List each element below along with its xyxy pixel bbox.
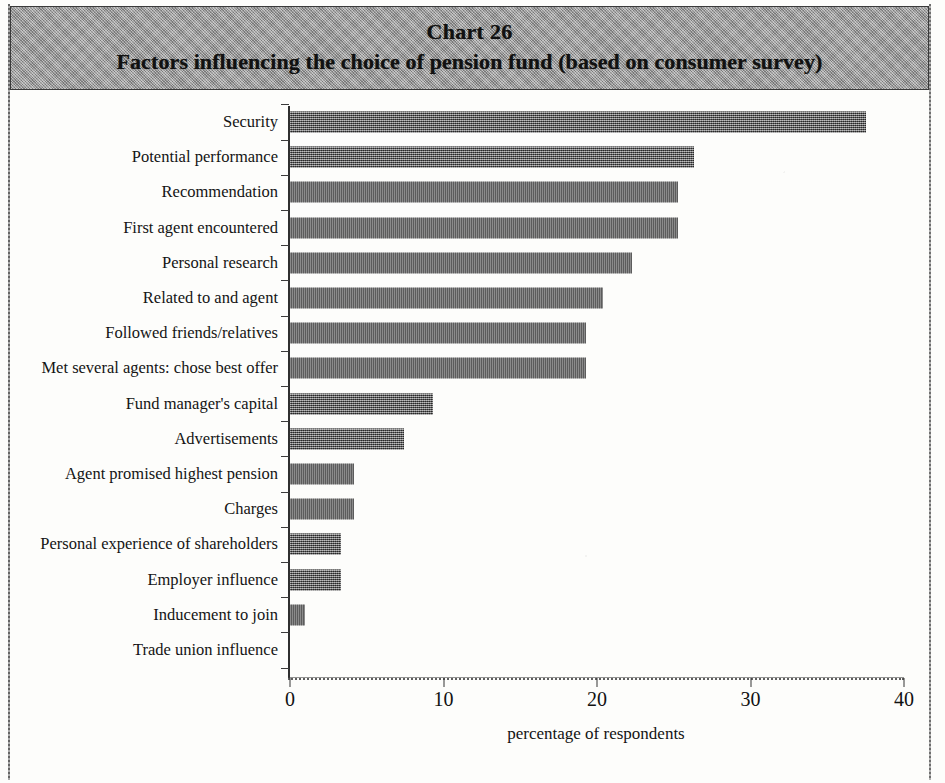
y-axis-tick (281, 316, 289, 317)
category-label: Fund manager's capital (0, 395, 278, 412)
y-axis-tick (281, 668, 289, 669)
bar (290, 112, 866, 133)
x-axis-tick (443, 678, 444, 687)
category-label: Followed friends/relatives (0, 325, 278, 342)
bar (290, 252, 632, 273)
x-axis-tick-label: 0 (285, 689, 295, 709)
y-axis-tick (281, 562, 289, 563)
bar (290, 323, 586, 344)
y-axis-tick (281, 140, 289, 141)
category-label: Security (0, 114, 278, 131)
bar (290, 534, 341, 555)
bar (290, 428, 404, 449)
chart-page: Chart 26 Factors influencing the choice … (0, 0, 945, 783)
y-axis-tick (281, 280, 289, 281)
x-axis-title: percentage of respondents (288, 724, 904, 744)
x-axis-tick-label: 30 (741, 689, 761, 709)
x-axis-tick (290, 678, 291, 687)
x-axis-tick-label: 20 (587, 689, 607, 709)
y-axis-tick (281, 175, 289, 176)
category-label: Recommendation (0, 184, 278, 201)
bar (290, 499, 354, 520)
category-label: Advertisements (0, 431, 278, 448)
bar (290, 393, 433, 414)
category-label: Inducement to join (0, 607, 278, 624)
category-label: Trade union influence (0, 642, 278, 659)
x-axis-tick-label: 40 (894, 689, 914, 709)
category-label: Agent promised highest pension (0, 466, 278, 483)
y-axis-tick (281, 597, 289, 598)
category-label: Charges (0, 501, 278, 518)
category-label: Employer influence (0, 571, 278, 588)
category-label: Related to and agent (0, 290, 278, 307)
y-axis-tick (281, 492, 289, 493)
chart-number: Chart 26 (426, 20, 512, 44)
bar (290, 147, 694, 168)
y-axis-tick (281, 245, 289, 246)
y-axis-tick (281, 210, 289, 211)
category-label: Met several agents: chose best offer (0, 360, 278, 377)
page-title: Factors influencing the choice of pensio… (116, 49, 822, 75)
x-axis-tick (750, 678, 751, 687)
bar (290, 569, 341, 590)
y-axis-tick (281, 351, 289, 352)
bar (290, 288, 603, 309)
page-frame-right-border (929, 4, 931, 780)
x-axis-tick-label: 10 (434, 689, 454, 709)
y-axis-tick (281, 527, 289, 528)
bar (290, 217, 678, 238)
plot-area: SecurityPotential performanceRecommendat… (10, 92, 929, 778)
bar (290, 604, 305, 625)
chart-title-band: Chart 26 Factors influencing the choice … (10, 6, 929, 90)
bar (290, 464, 354, 485)
x-axis-tick (904, 678, 905, 687)
category-label: Personal research (0, 255, 278, 272)
y-axis-tick (281, 104, 289, 105)
category-label: First agent encountered (0, 219, 278, 236)
y-axis-tick (281, 421, 289, 422)
y-axis-tick (281, 632, 289, 633)
bar (290, 182, 678, 203)
y-axis-tick (281, 386, 289, 387)
category-label: Personal experience of shareholders (0, 536, 278, 553)
x-axis-tick (597, 678, 598, 687)
bar (290, 358, 586, 379)
category-label: Potential performance (0, 149, 278, 166)
y-axis-tick (281, 456, 289, 457)
